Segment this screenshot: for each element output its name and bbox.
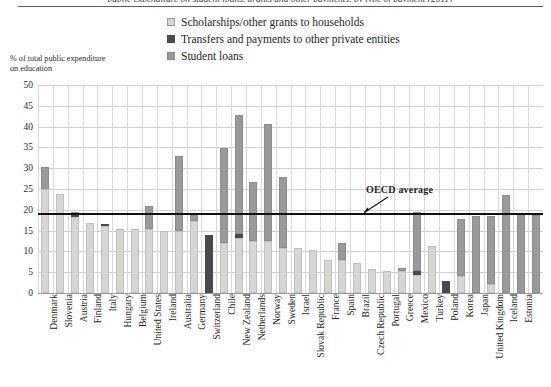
x-axis-label-switzerland: Switzerland [212, 294, 222, 340]
bar-israel[interactable] [294, 248, 302, 293]
category-separator [38, 85, 39, 293]
x-axis-label-mexico: Mexico [420, 294, 430, 323]
category-separator [97, 85, 98, 293]
segment-scholarships [86, 223, 94, 293]
category-separator [350, 85, 351, 293]
bar-turkey[interactable] [428, 246, 436, 293]
category-separator [201, 85, 202, 293]
bar-hungary[interactable] [116, 229, 124, 293]
x-axis-label-united-states: United States [153, 294, 163, 345]
bar-netherlands[interactable] [249, 182, 257, 293]
x-axis-label-japan: Japan [480, 294, 490, 316]
category-separator [335, 85, 336, 293]
oecd-average-line [38, 213, 543, 215]
x-axis-label-turkey: Turkey [435, 294, 445, 321]
x-axis-label-australia: Australia [183, 294, 193, 329]
segment-student-loans [338, 243, 346, 260]
legend-item-transfers: Transfers and payments to other private … [167, 31, 487, 47]
bar-belgium[interactable] [131, 229, 139, 293]
category-separator [291, 85, 292, 293]
segment-scholarships [220, 243, 228, 293]
bar-ireland[interactable] [160, 231, 168, 293]
bar-slovenia[interactable] [56, 194, 64, 293]
bar-portugal[interactable] [383, 271, 391, 293]
bar-japan[interactable] [472, 216, 480, 293]
segment-scholarships [235, 238, 243, 293]
x-axis-label-brazil: Brazil [361, 294, 371, 317]
bar-czech-republic[interactable] [368, 269, 376, 293]
bar-germany[interactable] [190, 215, 198, 293]
bar-united-states[interactable] [145, 206, 153, 293]
segment-scholarships [131, 229, 139, 293]
bar-slovak-republic[interactable] [309, 250, 317, 293]
bar-united-kingdom[interactable] [487, 216, 495, 293]
bar-france[interactable] [324, 260, 332, 293]
x-axis-label-greece: Greece [405, 294, 415, 321]
category-separator [142, 85, 143, 293]
category-separator [127, 85, 128, 293]
segment-scholarships [338, 260, 346, 293]
bar-norway[interactable] [264, 124, 272, 293]
segment-student-loans [220, 148, 228, 243]
figure-caption-sliver: public expenditure on student loans, gra… [90, 0, 470, 2]
segment-student-loans [472, 216, 480, 293]
bar-new-zealand[interactable] [235, 115, 243, 293]
x-axis-label-israel: Israel [301, 294, 311, 315]
segment-scholarships [487, 284, 495, 293]
bar-austria[interactable] [71, 212, 79, 293]
y-axis-title-line1: % of total public expenditure [10, 54, 140, 64]
x-axis-label-finland: Finland [93, 294, 103, 323]
segment-scholarships [249, 241, 257, 293]
legend-swatch-scholarships [167, 18, 175, 26]
segment-student-loans [517, 213, 525, 293]
category-separator [172, 85, 173, 293]
bar-australia[interactable] [175, 156, 183, 293]
x-axis-label-denmark: Denmark [49, 294, 59, 330]
legend-swatch-student-loans [167, 52, 175, 60]
segment-student-loans [41, 167, 49, 189]
category-separator [53, 85, 54, 293]
legend-item-scholarships: Scholarships/other grants to households [167, 14, 487, 30]
bar-mexico[interactable] [413, 212, 421, 293]
bar-finland[interactable] [86, 223, 94, 293]
x-axis-label-norway: Norway [272, 294, 282, 325]
segment-student-loans [145, 206, 153, 229]
segment-scholarships [56, 194, 64, 293]
category-separator [261, 85, 262, 293]
bar-sweden[interactable] [279, 177, 287, 293]
legend-item-student-loans: Student loans [167, 48, 487, 64]
bar-spain[interactable] [338, 243, 346, 293]
bar-chile[interactable] [220, 148, 228, 293]
segment-scholarships [101, 226, 109, 293]
segment-scholarships [71, 217, 79, 293]
bar-denmark[interactable] [41, 167, 49, 293]
segment-scholarships [368, 269, 376, 293]
category-separator [68, 85, 69, 293]
category-separator [305, 85, 306, 293]
segment-scholarships [116, 229, 124, 293]
x-axis-label-netherlands: Netherlands [257, 294, 267, 340]
bar-brazil[interactable] [353, 263, 361, 293]
x-axis-label-united-kingdom: United Kingdom [495, 294, 505, 359]
x-axis-label-france: France [331, 294, 341, 320]
segment-scholarships [190, 221, 198, 293]
y-tick-label-25: 25 [24, 184, 34, 194]
bar-unnamed[interactable] [532, 215, 540, 293]
segment-scholarships [428, 246, 436, 293]
bar-estonia[interactable] [517, 213, 525, 293]
bar-greece[interactable] [398, 268, 406, 293]
x-axis-label-new-zealand: New Zealand [242, 294, 252, 345]
bar-korea[interactable] [457, 219, 465, 293]
bar-poland[interactable] [442, 281, 450, 293]
y-tick-label-20: 20 [24, 205, 34, 215]
bar-iceland[interactable] [502, 195, 510, 293]
bar-italy[interactable] [101, 224, 109, 293]
segment-scholarships [294, 248, 302, 293]
x-axis-label-korea: Korea [465, 294, 475, 317]
bar-switzerland[interactable] [205, 235, 213, 293]
x-axis-label-slovenia: Slovenia [64, 294, 74, 328]
segment-student-loans [175, 156, 183, 231]
segment-student-loans [487, 216, 495, 283]
x-axis-label-germany: Germany [197, 294, 207, 330]
segment-student-loans [413, 212, 421, 271]
